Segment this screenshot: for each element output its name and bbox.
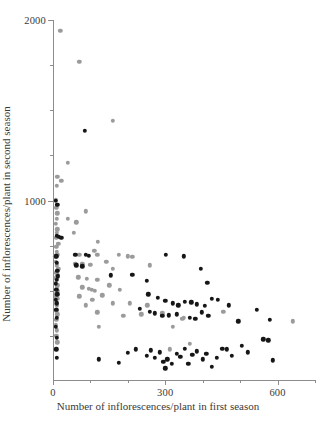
data-point <box>128 301 132 305</box>
data-point <box>83 129 87 133</box>
data-point <box>55 355 59 359</box>
data-point <box>146 292 150 296</box>
data-point <box>138 307 142 311</box>
data-point <box>164 252 168 256</box>
data-point <box>195 302 199 306</box>
data-point <box>55 211 59 215</box>
data-point <box>71 231 75 235</box>
data-point <box>55 203 59 207</box>
data-point <box>84 209 88 213</box>
data-point <box>87 253 91 257</box>
data-point <box>66 160 70 164</box>
data-point <box>186 362 190 366</box>
data-point <box>59 235 63 239</box>
data-point <box>54 244 58 248</box>
data-point <box>206 314 210 318</box>
data-point <box>255 307 259 311</box>
data-point <box>80 264 84 268</box>
data-point <box>74 263 78 267</box>
x-tick <box>278 380 279 385</box>
data-point <box>160 314 164 318</box>
x-axis-line <box>53 380 315 381</box>
data-point <box>95 310 99 314</box>
x-tick <box>165 380 166 385</box>
x-tick <box>53 380 54 385</box>
data-point <box>100 293 104 297</box>
data-point <box>144 354 148 358</box>
y-axis-title: Number of inflorescences/plant in second… <box>0 0 16 428</box>
data-point <box>121 314 125 318</box>
data-point <box>170 362 174 366</box>
x-tick-minor <box>90 380 91 383</box>
data-point <box>199 267 203 271</box>
data-point <box>149 348 153 352</box>
data-point <box>54 222 58 226</box>
y-tick-minor <box>50 155 53 156</box>
data-point <box>111 301 115 305</box>
data-point <box>96 357 100 361</box>
data-point <box>240 344 244 348</box>
data-point <box>187 316 191 320</box>
data-point <box>58 29 62 33</box>
data-point <box>96 325 100 329</box>
data-point <box>55 335 59 339</box>
plot-area: 10002000 0300600 <box>53 20 315 381</box>
data-point <box>178 354 182 358</box>
x-tick-label: 300 <box>157 387 173 398</box>
data-point <box>54 347 58 351</box>
data-point <box>84 303 88 307</box>
data-point <box>230 354 234 358</box>
y-tick-label: 2000 <box>24 15 46 26</box>
data-point <box>116 361 120 365</box>
y-tick-minor <box>50 246 53 247</box>
data-point <box>225 347 229 351</box>
data-point <box>245 350 249 354</box>
data-point <box>147 263 151 267</box>
data-point <box>55 316 59 320</box>
data-point <box>221 309 225 313</box>
data-point <box>134 347 138 351</box>
data-point <box>174 312 178 316</box>
x-tick-minor <box>203 380 204 383</box>
data-point <box>66 216 70 220</box>
data-point <box>182 254 186 258</box>
data-point <box>183 299 187 303</box>
data-point <box>176 303 180 307</box>
data-point <box>93 289 97 293</box>
data-point <box>80 285 84 289</box>
x-tick-label: 0 <box>50 387 55 398</box>
data-point <box>168 347 172 351</box>
data-point <box>215 355 219 359</box>
data-point <box>156 296 160 300</box>
data-point <box>126 351 130 355</box>
data-point <box>59 178 63 182</box>
y-tick-label: 1000 <box>24 195 46 206</box>
data-point <box>130 255 134 259</box>
data-point <box>187 342 191 346</box>
data-point <box>55 292 59 296</box>
data-point <box>77 252 81 256</box>
data-point <box>236 319 240 323</box>
data-point <box>195 349 199 353</box>
data-point <box>290 319 294 323</box>
data-point <box>116 252 120 256</box>
data-point <box>55 269 59 273</box>
data-point <box>268 317 272 321</box>
data-point <box>165 357 169 361</box>
data-point <box>163 298 167 302</box>
data-point <box>210 297 214 301</box>
data-point <box>210 364 214 368</box>
data-point <box>201 357 205 361</box>
y-tick-minor <box>50 110 53 111</box>
data-point <box>163 366 167 370</box>
data-point <box>271 358 275 362</box>
data-point <box>171 325 175 329</box>
data-point <box>76 275 80 279</box>
data-point <box>55 216 59 220</box>
data-point <box>55 328 59 332</box>
data-point <box>153 311 157 315</box>
data-point <box>147 309 151 313</box>
data-point <box>204 352 208 356</box>
data-point <box>171 301 175 305</box>
data-point <box>104 260 108 264</box>
